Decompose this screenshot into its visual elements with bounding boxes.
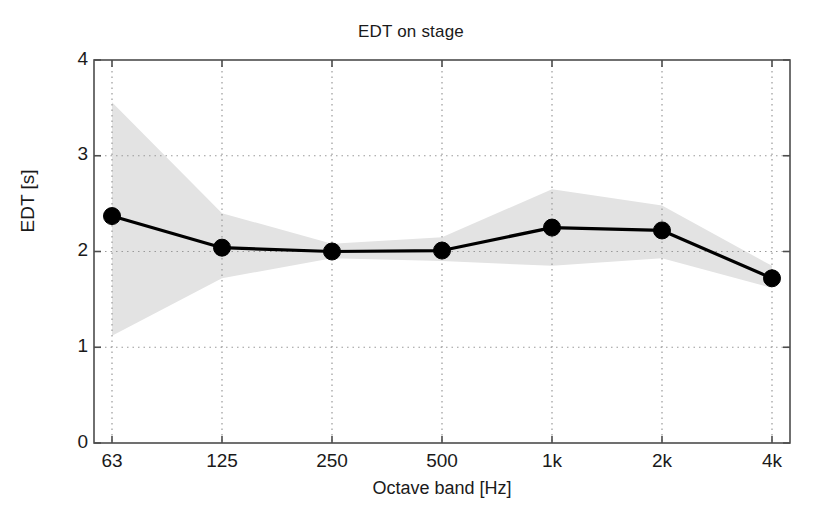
data-point-500 bbox=[434, 242, 451, 259]
data-point-2k bbox=[654, 222, 671, 239]
chart-page: EDT on stage EDT [s] 0 1 2 3 4 63 125 25… bbox=[0, 0, 822, 512]
plot-area bbox=[0, 0, 822, 512]
edt-on-stage-chart: EDT on stage EDT [s] 0 1 2 3 4 63 125 25… bbox=[0, 0, 822, 512]
data-point-125 bbox=[214, 239, 231, 256]
data-point-250 bbox=[324, 243, 341, 260]
data-point-4k bbox=[764, 270, 781, 287]
data-point-1k bbox=[544, 219, 561, 236]
data-point-63 bbox=[104, 208, 121, 225]
